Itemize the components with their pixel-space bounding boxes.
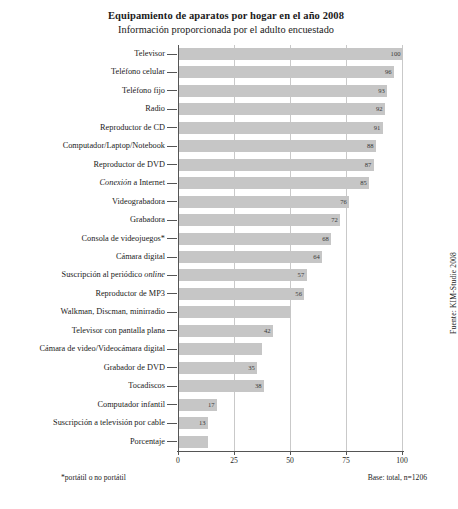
bar-value-label: 76 <box>179 196 349 208</box>
x-axis-tick-label: 0 <box>176 456 180 465</box>
bar <box>179 343 262 355</box>
category-label: Reproductor de DVD <box>94 159 178 171</box>
x-axis-tick-label: 100 <box>396 456 407 465</box>
chart-subtitle: Información proporcionada por el adulto … <box>0 23 452 36</box>
bar-value-label: 91 <box>179 122 383 134</box>
bar-row: Televisor con pantalla plana42 <box>178 322 404 340</box>
bar-value-label: 42 <box>179 325 273 337</box>
category-label: Porcentaje <box>130 436 178 448</box>
x-axis-tick-label: 75 <box>342 456 350 465</box>
bar-row: Reproductor de MP356 <box>178 285 404 303</box>
bar-row: Suscripción a televisión por cable13 <box>178 414 404 432</box>
bar-row: Cámara de video/Videocámara digital <box>178 340 404 358</box>
bar-value-label: 68 <box>179 233 331 245</box>
bar-value-label: 38 <box>179 380 264 392</box>
bar-row: Televisor100 <box>178 45 404 63</box>
x-axis-tick-label: 50 <box>286 456 294 465</box>
category-label: Cámara digital <box>116 251 178 263</box>
bar-row: Conexión a Internet85 <box>178 174 404 192</box>
bar-value-label: 13 <box>179 417 208 429</box>
category-label: Grabadora <box>130 214 178 226</box>
bar <box>179 306 291 318</box>
x-axis: 0255075100 <box>178 451 404 471</box>
base-note: Base: total, n=1206 <box>368 473 427 482</box>
source-label: Fuente: KIM-Studie 2008 <box>449 252 458 334</box>
bar-row: Porcentaje <box>178 433 404 451</box>
x-axis-tick-label: 25 <box>230 456 238 465</box>
category-label: Grabador de DVD <box>104 362 178 374</box>
bar-value-label: 17 <box>179 399 217 411</box>
bar <box>179 436 208 448</box>
bar-value-label: 85 <box>179 177 369 189</box>
category-label: Computador/Laptop/Notebook <box>63 140 178 152</box>
plot-area: Televisor100Teléfono celular96Teléfono f… <box>178 45 404 451</box>
category-label: Televisor con pantalla plana <box>72 325 178 337</box>
bar-row: Suscripción al periódico online57 <box>178 266 404 284</box>
bar-value-label: 72 <box>179 214 340 226</box>
x-axis-tick <box>346 451 347 455</box>
category-label: Teléfono fijo <box>122 85 178 97</box>
chart-title: Equipamiento de aparatos por hogar en el… <box>0 9 452 22</box>
category-label: Cámara de video/Videocámara digital <box>39 343 178 355</box>
category-label: Suscripción a televisión por cable <box>53 417 178 429</box>
bar-value-label: 35 <box>179 362 257 374</box>
bar-row: Radio92 <box>178 100 404 118</box>
bar-row: Tocadiscos38 <box>178 377 404 395</box>
category-label: Computador infantil <box>97 399 178 411</box>
category-label: Consola de videojuegos* <box>82 233 178 245</box>
category-label: Radio <box>145 103 178 115</box>
category-label: Televisor <box>134 48 178 60</box>
x-axis-tick <box>290 451 291 455</box>
category-label: Walkman, Discman, minirradio <box>61 306 178 318</box>
bar-row: Videograbadora76 <box>178 193 404 211</box>
bar-value-label: 96 <box>179 66 394 78</box>
x-axis-tick <box>234 451 235 455</box>
category-label: Tocadiscos <box>128 380 178 392</box>
bar-value-label: 92 <box>179 103 385 115</box>
bar-row: Teléfono fijo93 <box>178 82 404 100</box>
bar-row: Teléfono celular96 <box>178 63 404 81</box>
bar-row: Reproductor de DVD87 <box>178 156 404 174</box>
bar-row: Reproductor de CD91 <box>178 119 404 137</box>
bar-value-label: 87 <box>179 159 374 171</box>
bar-row: Walkman, Discman, minirradio <box>178 303 404 321</box>
bar-value-label: 56 <box>179 288 304 300</box>
category-label: Videograbadora <box>112 196 178 208</box>
category-label: Conexión a Internet <box>100 177 178 189</box>
bar-value-label: 93 <box>179 85 387 97</box>
bar-row: Grabadora72 <box>178 211 404 229</box>
bar-value-label: 100 <box>179 48 403 60</box>
bar-row: Computador infantil17 <box>178 396 404 414</box>
bar-value-label: 64 <box>179 251 322 263</box>
category-label: Reproductor de CD <box>100 122 178 134</box>
bar-value-label: 88 <box>179 140 376 152</box>
bar-row: Grabador de DVD35 <box>178 359 404 377</box>
footnote: *portátil o no portátil <box>61 473 126 482</box>
title-block: Equipamiento de aparatos por hogar en el… <box>0 9 452 36</box>
bar-row: Consola de videojuegos*68 <box>178 230 404 248</box>
bar-value-label: 57 <box>179 269 307 281</box>
bar-row: Cámara digital64 <box>178 248 404 266</box>
bar-row: Computador/Laptop/Notebook88 <box>178 137 404 155</box>
x-axis-tick <box>402 451 403 455</box>
category-label: Reproductor de MP3 <box>95 288 178 300</box>
x-axis-tick <box>178 451 179 455</box>
category-label: Teléfono celular <box>111 66 178 78</box>
category-label: Suscripción al periódico online <box>62 269 178 281</box>
